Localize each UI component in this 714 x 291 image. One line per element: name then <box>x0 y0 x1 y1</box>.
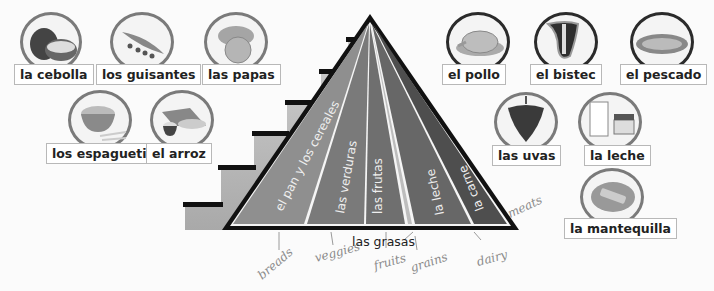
handwritten-breads: breads <box>255 245 296 282</box>
section-label-fruits: las frutas <box>371 158 385 214</box>
onion-icon <box>26 20 80 68</box>
rice-icon <box>156 104 210 140</box>
chicken-icon <box>452 24 506 64</box>
spaghetti-icon <box>76 98 130 146</box>
handwritten-fruits: fruits <box>371 251 407 273</box>
handwritten-meats: meats <box>505 193 544 221</box>
label-el-bistec: el bistec <box>530 64 602 85</box>
label-el-arroz: el arroz <box>146 143 212 164</box>
handwritten-grains: grains <box>409 250 450 275</box>
butter-icon <box>588 178 638 216</box>
potatoes-icon <box>212 20 262 68</box>
label-las-uvas: las uvas <box>492 145 561 166</box>
fish-icon <box>634 28 690 60</box>
fats-label: las grasas <box>352 234 415 249</box>
milk-icon <box>588 100 638 142</box>
grapes-icon <box>504 96 548 146</box>
label-la-leche: la leche <box>584 145 651 166</box>
label-el-pescado: el pescado <box>620 64 707 85</box>
peas-icon <box>118 26 168 62</box>
handwritten-dairy: dairy <box>475 247 509 269</box>
label-la-mantequilla: la mantequilla <box>564 218 677 239</box>
label-los-guisantes: los guisantes <box>96 64 201 85</box>
label-la-cebolla: la cebolla <box>14 64 94 85</box>
label-los-espaguetis: los espaguetis <box>46 143 160 164</box>
steak-icon <box>546 18 586 66</box>
label-las-papas: las papas <box>202 64 281 85</box>
label-el-pollo: el pollo <box>442 64 506 85</box>
